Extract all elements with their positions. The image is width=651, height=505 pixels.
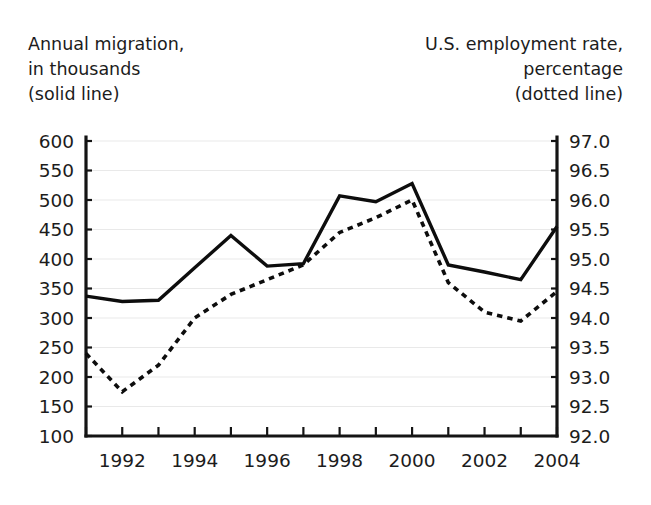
plot-area: 600550500450400350300250200150100 97.096… (0, 0, 651, 505)
x-axis-tick-label: 1996 (244, 450, 291, 471)
x-axis-tick-label: 1994 (171, 450, 218, 471)
x-axis-tick-label: 1998 (316, 450, 363, 471)
axis-lines (86, 137, 557, 436)
right-axis-tick-label: 93.5 (569, 337, 610, 358)
right-axis-tick-label: 94.5 (569, 278, 610, 299)
left-axis-tick-label: 350 (39, 278, 74, 299)
migration-employment-chart-figure: Annual migration, in thousands (solid li… (0, 0, 651, 505)
x-axis-tick-label: 2002 (461, 450, 508, 471)
series-line-solid (86, 183, 557, 301)
left-axis-tick-label: 100 (39, 426, 74, 447)
x-axis-tick-labels: 1992199419961998200020022004 (99, 450, 581, 471)
left-axis-tick-label: 400 (39, 249, 74, 270)
left-axis-tick-label: 250 (39, 337, 74, 358)
right-axis-tick-label: 96.5 (569, 160, 610, 181)
left-axis-tick-label: 500 (39, 190, 74, 211)
left-axis-tick-label: 300 (39, 308, 74, 329)
gridlines (86, 141, 557, 436)
chart-svg: 600550500450400350300250200150100 97.096… (0, 0, 651, 505)
right-axis-tick-label: 95.5 (569, 219, 610, 240)
right-axis-tick-label: 93.0 (569, 367, 610, 388)
left-axis-tick-labels: 600550500450400350300250200150100 (39, 131, 74, 447)
left-axis-tick-label: 550 (39, 160, 74, 181)
right-axis-tick-label: 92.5 (569, 396, 610, 417)
left-axis-tick-label: 200 (39, 367, 74, 388)
data-series (86, 183, 557, 391)
right-axis-tick-label: 96.0 (569, 190, 610, 211)
left-axis-tick-label: 600 (39, 131, 74, 152)
x-axis-tick-label: 2000 (389, 450, 436, 471)
x-axis-tick-label: 1992 (99, 450, 146, 471)
left-axis-tick-label: 150 (39, 396, 74, 417)
left-axis-tick-label: 450 (39, 219, 74, 240)
right-axis-tick-label: 92.0 (569, 426, 610, 447)
right-axis-tick-label: 95.0 (569, 249, 610, 270)
right-axis-tick-label: 97.0 (569, 131, 610, 152)
right-axis-tick-label: 94.0 (569, 308, 610, 329)
x-axis-tick-label: 2004 (533, 450, 580, 471)
right-axis-tick-labels: 97.096.596.095.595.094.594.093.593.092.5… (569, 131, 610, 447)
